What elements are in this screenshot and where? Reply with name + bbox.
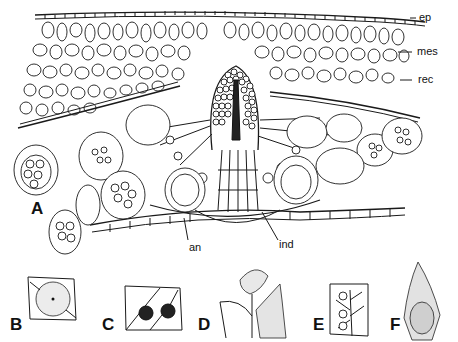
label-ep: ep <box>419 12 431 23</box>
botanical-figure: ep mes rec an ind A B C D E F <box>0 0 458 342</box>
label-rec: rec <box>418 74 433 85</box>
panel-e-drawing <box>330 284 368 336</box>
cross-section-drawing <box>0 0 458 342</box>
panel-f-drawing <box>404 262 440 340</box>
label-an: an <box>189 242 201 253</box>
panel-label-b: B <box>10 316 22 333</box>
mesophyll <box>20 22 409 116</box>
panel-label-d: D <box>198 316 210 333</box>
panel-b-drawing <box>28 277 76 320</box>
panel-label-e: E <box>313 316 324 333</box>
panel-d-drawing <box>220 270 286 338</box>
panel-label-a: A <box>31 200 43 217</box>
label-ind: ind <box>279 239 294 250</box>
panel-label-f: F <box>390 316 400 333</box>
panel-c-drawing <box>125 286 182 330</box>
panel-label-c: C <box>102 316 114 333</box>
label-mes: mes <box>417 46 438 57</box>
antheridia-right <box>274 114 422 204</box>
